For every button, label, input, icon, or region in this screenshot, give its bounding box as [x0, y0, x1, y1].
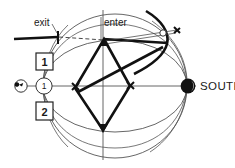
kite-polygon — [75, 39, 130, 130]
exit-dashed-line — [59, 37, 104, 40]
box-marker-2-label: 2 — [41, 106, 47, 118]
celestial-sphere-diagram: SOUTH 1 1 2 exit enter — [0, 0, 235, 168]
south-moon-marker — [181, 79, 196, 94]
exit-bold-segment — [14, 37, 58, 39]
box-marker-1: 1 — [36, 53, 53, 70]
enter-label: enter — [104, 17, 127, 28]
exit-label: exit — [34, 17, 50, 28]
exit-leader-line — [52, 24, 57, 33]
enter-node-circle — [160, 30, 166, 36]
west-moon-marker — [15, 80, 28, 92]
box-marker-1-label: 1 — [41, 56, 47, 68]
circle-marker-label: 1 — [42, 81, 47, 91]
box-marker-2: 2 — [36, 102, 53, 120]
right-crossing-arrow — [127, 82, 134, 89]
bold-cross-diagonal — [78, 47, 163, 92]
circle-marker-1: 1 — [36, 78, 52, 94]
south-label: SOUTH — [200, 80, 235, 92]
